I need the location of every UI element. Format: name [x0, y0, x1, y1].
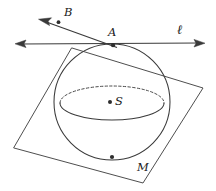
tangent-plane: [14, 48, 203, 183]
point-m-dot: [110, 155, 114, 159]
sphere-tangent-diagram: ℓ B A S M: [0, 0, 216, 191]
line-l-shaft: [20, 43, 200, 44]
point-m-label: M: [136, 160, 150, 174]
point-a-label: A: [107, 25, 116, 39]
center-s-dot: [108, 100, 112, 104]
point-b-label: B: [63, 5, 72, 19]
equator-front-solid: [60, 103, 164, 120]
geometry-figure: ℓ B A S M: [0, 0, 216, 191]
center-s-label: S: [115, 94, 123, 108]
center-s: S: [108, 94, 123, 108]
ray-ab-arrowhead: [39, 18, 52, 26]
equator-back-dashed: [60, 86, 164, 103]
plane-outline: [14, 48, 203, 183]
point-a-dot: [111, 43, 115, 47]
point-m: M: [110, 155, 150, 174]
line-l-label: ℓ: [177, 22, 183, 37]
ray-ab: B: [39, 5, 118, 48]
point-b-dot: [57, 20, 61, 24]
